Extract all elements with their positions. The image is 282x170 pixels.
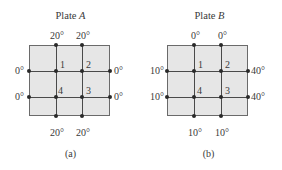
grid-line-horizontal — [29, 97, 110, 98]
title-prefix: Plate — [55, 10, 79, 21]
node-label-1: 1 — [60, 60, 65, 70]
bottom-temp-label: 10° — [215, 128, 229, 138]
right-temp-label: 40° — [251, 92, 265, 102]
interior-node-dot — [219, 69, 223, 73]
right-temp-label: 0° — [114, 66, 123, 76]
bottom-temp-label: 20° — [50, 128, 64, 138]
boundary-node-dot — [54, 43, 58, 47]
top-temp-label: 0° — [191, 31, 200, 41]
node-label-1: 1 — [198, 60, 203, 70]
node-label-3: 3 — [86, 86, 91, 96]
title-variable: A — [79, 10, 85, 21]
boundary-node-dot — [165, 69, 169, 73]
interior-node-dot — [80, 95, 84, 99]
boundary-node-dot — [80, 43, 84, 47]
left-temp-label: 10° — [150, 92, 164, 102]
interior-node-dot — [54, 69, 58, 73]
node-label-2: 2 — [225, 60, 230, 70]
boundary-node-dot — [108, 95, 112, 99]
boundary-node-dot — [108, 69, 112, 73]
right-temp-label: 40° — [251, 66, 265, 76]
top-temp-label: 0° — [218, 31, 227, 41]
top-temp-label: 20° — [76, 31, 90, 41]
boundary-node-dot — [27, 95, 31, 99]
plate-b-rectangle — [167, 45, 248, 116]
boundary-node-dot — [80, 114, 84, 118]
plate-a-title: Plate A — [0, 10, 141, 21]
boundary-node-dot — [192, 43, 196, 47]
grid-line-horizontal — [167, 71, 248, 72]
plate-b-title: Plate B — [139, 10, 280, 21]
node-label-3: 3 — [225, 86, 230, 96]
node-label-4: 4 — [197, 86, 202, 96]
panel-plate-b: Plate B 1 2 3 4 0° 0° 10° 10° 10° 10° 40… — [141, 0, 282, 170]
grid-line-vertical — [82, 45, 83, 116]
boundary-node-dot — [246, 95, 250, 99]
left-temp-label: 0° — [15, 92, 24, 102]
left-temp-label: 10° — [150, 66, 164, 76]
grid-line-vertical — [56, 45, 57, 116]
interior-node-dot — [80, 69, 84, 73]
panel-caption-a: (a) — [0, 148, 141, 159]
interior-node-dot — [192, 95, 196, 99]
bottom-temp-label: 20° — [76, 128, 90, 138]
title-variable: B — [218, 10, 224, 21]
panel-caption-b: (b) — [138, 148, 279, 159]
grid-line-horizontal — [167, 97, 248, 98]
right-temp-label: 0° — [114, 92, 123, 102]
boundary-node-dot — [192, 114, 196, 118]
grid-line-vertical — [194, 45, 195, 116]
bottom-temp-label: 10° — [188, 128, 202, 138]
top-temp-label: 20° — [50, 31, 64, 41]
boundary-node-dot — [246, 69, 250, 73]
grid-line-vertical — [221, 45, 222, 116]
left-temp-label: 0° — [15, 66, 24, 76]
grid-line-horizontal — [29, 71, 110, 72]
boundary-node-dot — [54, 114, 58, 118]
interior-node-dot — [219, 95, 223, 99]
boundary-node-dot — [165, 95, 169, 99]
interior-node-dot — [192, 69, 196, 73]
boundary-node-dot — [219, 43, 223, 47]
node-label-4: 4 — [58, 86, 63, 96]
node-label-2: 2 — [86, 60, 91, 70]
panel-plate-a: Plate A 1 2 3 4 20° 20° 20° 20° 0° 0° 0°… — [0, 0, 141, 170]
boundary-node-dot — [27, 69, 31, 73]
title-prefix: Plate — [194, 10, 218, 21]
boundary-node-dot — [219, 114, 223, 118]
plate-a-rectangle — [29, 45, 110, 116]
